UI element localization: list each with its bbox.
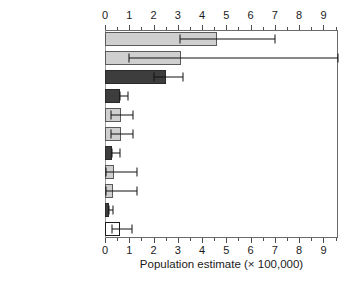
error-bar-cap — [128, 92, 129, 101]
x-tick-label: 0 — [95, 244, 115, 256]
x-tick-minor — [141, 238, 142, 241]
x-tick-label: 2 — [144, 9, 164, 21]
error-bar-cap — [111, 111, 112, 120]
error-bar — [111, 134, 133, 135]
x-tick-minor — [166, 238, 167, 241]
error-bar-cap — [108, 205, 109, 214]
error-bar — [154, 77, 183, 78]
x-tick-major — [251, 238, 252, 243]
x-tick-major — [129, 238, 130, 243]
error-bar-cap — [119, 148, 120, 157]
x-tick-minor — [214, 238, 215, 241]
x-tick-label: 2 — [144, 244, 164, 256]
error-bar-cap — [129, 54, 130, 63]
x-tick-label: 1 — [119, 9, 139, 21]
x-tick-label: 8 — [289, 244, 309, 256]
x-tick-label: 7 — [265, 244, 285, 256]
x-tick-minor — [311, 27, 312, 30]
error-bar — [111, 115, 133, 116]
x-tick-label: 5 — [216, 9, 236, 21]
x-tick-major — [154, 25, 155, 30]
error-bar-cap — [132, 130, 133, 139]
x-tick-label: 6 — [241, 9, 261, 21]
x-tick-major — [275, 238, 276, 243]
x-tick-minor — [263, 27, 264, 30]
x-tick-minor — [117, 238, 118, 241]
x-tick-minor — [311, 238, 312, 241]
x-tick-minor — [190, 27, 191, 30]
x-tick-label: 4 — [192, 244, 212, 256]
error-bar-cap — [182, 73, 183, 82]
error-bar-cap — [112, 148, 113, 157]
x-tick-minor — [336, 238, 337, 241]
x-tick-major — [154, 238, 155, 243]
x-tick-label: 6 — [241, 244, 261, 256]
error-bar-cap — [136, 186, 137, 195]
x-tick-minor — [263, 238, 264, 241]
x-tick-major — [105, 25, 106, 30]
x-tick-major — [129, 25, 130, 30]
population-bar-chart: 0123456789 0123456789 SPAINFRANCEITALYHU… — [0, 0, 355, 282]
error-bar-cap — [106, 167, 107, 176]
x-tick-major — [202, 25, 203, 30]
error-bar-cap — [111, 130, 112, 139]
error-bar — [129, 58, 338, 59]
x-tick-minor — [214, 27, 215, 30]
error-bar-cap — [274, 35, 275, 44]
x-tick-minor — [117, 27, 118, 30]
x-axis-top: 0123456789 — [105, 30, 338, 31]
x-tick-label: 4 — [192, 9, 212, 21]
x-tick-minor — [287, 27, 288, 30]
error-bar-cap — [153, 73, 154, 82]
error-bar-cap — [131, 224, 132, 233]
x-axis-title: Population estimate (× 100,000) — [105, 258, 338, 270]
x-tick-label: 8 — [289, 9, 309, 21]
x-tick-minor — [141, 27, 142, 30]
x-tick-major — [178, 25, 179, 30]
error-bar — [106, 171, 136, 172]
x-tick-minor — [238, 27, 239, 30]
error-bar — [112, 228, 131, 229]
x-tick-minor — [336, 27, 337, 30]
error-bar-cap — [136, 167, 137, 176]
x-tick-label: 3 — [168, 244, 188, 256]
error-bar-cap — [132, 111, 133, 120]
x-tick-label: 0 — [95, 9, 115, 21]
error-bar — [106, 190, 136, 191]
error-bar-cap — [119, 92, 120, 101]
x-tick-major — [226, 238, 227, 243]
error-bar-cap — [112, 224, 113, 233]
x-tick-major — [105, 238, 106, 243]
x-tick-minor — [190, 238, 191, 241]
x-tick-major — [202, 238, 203, 243]
x-tick-label: 5 — [216, 244, 236, 256]
x-tick-major — [323, 238, 324, 243]
x-tick-major — [275, 25, 276, 30]
x-axis-bottom: 0123456789 — [105, 238, 338, 239]
x-tick-major — [251, 25, 252, 30]
x-tick-major — [178, 238, 179, 243]
error-bar-cap — [106, 186, 107, 195]
x-tick-label: 9 — [313, 244, 333, 256]
x-tick-major — [299, 238, 300, 243]
error-bar-cap — [113, 205, 114, 214]
x-tick-minor — [287, 238, 288, 241]
x-tick-major — [299, 25, 300, 30]
x-tick-major — [226, 25, 227, 30]
x-tick-minor — [166, 27, 167, 30]
x-tick-major — [323, 25, 324, 30]
x-tick-label: 9 — [313, 9, 333, 21]
x-tick-minor — [238, 238, 239, 241]
error-bar — [180, 39, 275, 40]
x-tick-label: 3 — [168, 9, 188, 21]
x-tick-label: 7 — [265, 9, 285, 21]
x-tick-label: 1 — [119, 244, 139, 256]
error-bar-cap — [180, 35, 181, 44]
error-bar-cap — [338, 54, 339, 63]
bar — [105, 89, 120, 103]
